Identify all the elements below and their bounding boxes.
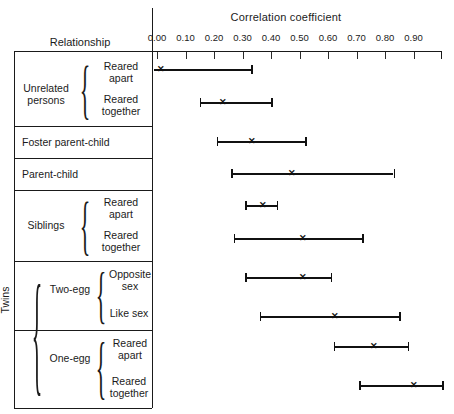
- axis-tick-label: 0.90: [398, 32, 430, 43]
- range-bar-cap-high: [305, 137, 307, 146]
- row-label-siblings-reared-apart: Reared apart: [92, 196, 150, 220]
- median-marker-x-icon: ✕: [299, 273, 307, 282]
- axis-tick: [214, 52, 215, 59]
- range-bar-cap-low: [200, 98, 202, 107]
- axis-tick-label: 0.70: [341, 32, 373, 43]
- axis-tick: [300, 52, 301, 59]
- axis-tick: [186, 52, 187, 59]
- row-label-foster-parent-child: Foster parent-child: [22, 136, 150, 148]
- range-bar-line: [245, 277, 331, 279]
- row-label-one-egg-reared-apart: Reared apart: [108, 337, 152, 361]
- axis-tick-label: 0.50: [284, 32, 316, 43]
- range-bar-cap-high: [331, 273, 333, 282]
- median-marker-x-icon: ✕: [248, 137, 256, 146]
- group-label-line-1: Unrelated persons: [16, 82, 76, 106]
- axis-tick-label: 0.60: [312, 32, 344, 43]
- median-marker-x-icon: ✕: [219, 98, 227, 107]
- row-label-siblings-reared-together: Reared together: [92, 229, 150, 253]
- range-bar-line: [154, 69, 252, 71]
- axis-tick: [157, 52, 158, 59]
- axis-tick-label: 0.40: [255, 32, 287, 43]
- median-marker-x-icon: ✕: [370, 342, 378, 351]
- range-bar-line: [231, 173, 393, 175]
- range-bar-cap-low: [334, 342, 336, 351]
- axis-tick-label: 0.20: [198, 32, 230, 43]
- median-marker-x-icon: ✕: [299, 234, 307, 243]
- axis-baseline: [152, 51, 442, 52]
- row-label-unrelated-reared-apart: Reared apart: [92, 60, 150, 84]
- axis-tick-label: 0.30: [227, 32, 259, 43]
- range-bar-cap-low: [245, 273, 247, 282]
- median-marker-x-icon: ✕: [331, 312, 339, 321]
- row-label-two-egg-opposite-sex: Opposite sex: [108, 268, 152, 292]
- range-bar-cap-low: [234, 234, 236, 243]
- axis-tick: [357, 52, 358, 59]
- range-bar-line: [234, 238, 362, 240]
- axis-tick-label: 0.00: [141, 32, 173, 43]
- axis-tick-label: 0.10: [170, 32, 202, 43]
- median-marker-x-icon: ✕: [288, 169, 296, 178]
- group-separator-2: [14, 158, 152, 159]
- axis-tick: [328, 52, 329, 59]
- range-bar-line: [217, 141, 305, 143]
- range-bar-cap-high: [251, 65, 253, 74]
- range-bar-line: [359, 385, 442, 387]
- range-bar-cap-low: [359, 381, 361, 390]
- group-label-siblings: Siblings: [16, 219, 76, 231]
- label-column-left-edge: [14, 51, 15, 408]
- row-label-unrelated-reared-together: Reared together: [92, 93, 150, 117]
- range-bar-cap-high: [394, 169, 396, 178]
- range-bar-cap-high: [271, 98, 273, 107]
- brace-two-egg: {: [94, 263, 108, 329]
- range-bar-cap-low: [260, 312, 262, 321]
- group-separator-4: [14, 261, 152, 262]
- range-bar-cap-high: [442, 381, 444, 390]
- axis-tick-label: 0.80: [369, 32, 401, 43]
- row-label-two-egg-like-sex: Like sex: [106, 307, 152, 319]
- brace-unrelated-persons: {: [78, 56, 92, 124]
- axis-spine: [152, 8, 153, 408]
- axis-tick: [414, 52, 415, 59]
- plot-right-edge: [441, 51, 442, 59]
- range-bar-line: [200, 102, 271, 104]
- group-separator-1: [14, 126, 152, 127]
- axis-tick: [385, 52, 386, 59]
- range-bar-cap-low: [217, 137, 219, 146]
- correlation-coefficient-chart: Relationship Correlation coefficient 0.0…: [0, 0, 454, 414]
- median-marker-x-icon: ✕: [157, 65, 165, 74]
- axis-tick: [271, 52, 272, 59]
- axis-title: Correlation coefficient: [155, 11, 417, 23]
- range-bar-cap-low: [245, 201, 247, 210]
- group-label-two-egg: Two-egg: [48, 283, 92, 295]
- range-bar-cap-high: [277, 201, 279, 210]
- header-separator-left: [14, 51, 152, 52]
- group-label-one-egg: One-egg: [48, 352, 92, 364]
- outer-group-label-twins: Twins: [0, 270, 11, 330]
- group-label-unrelated-persons: Unrelated persons: [16, 82, 76, 106]
- axis-tick: [243, 52, 244, 59]
- group-separator-3: [14, 190, 152, 191]
- row-label-header: Relationship: [14, 36, 146, 48]
- label-column-bottom-edge: [14, 408, 152, 409]
- range-bar-cap-high: [362, 234, 364, 243]
- median-marker-x-icon: ✕: [410, 381, 418, 390]
- median-marker-x-icon: ✕: [259, 201, 267, 210]
- row-label-one-egg-reared-together: Reared together: [106, 375, 152, 399]
- range-bar-cap-high: [408, 342, 410, 351]
- range-bar-line: [260, 316, 400, 318]
- range-bar-cap-low: [231, 169, 233, 178]
- range-bar-cap-high: [399, 312, 401, 321]
- row-label-parent-child: Parent-child: [22, 168, 150, 180]
- brace-twins: {: [30, 264, 44, 406]
- brace-siblings: {: [78, 192, 92, 260]
